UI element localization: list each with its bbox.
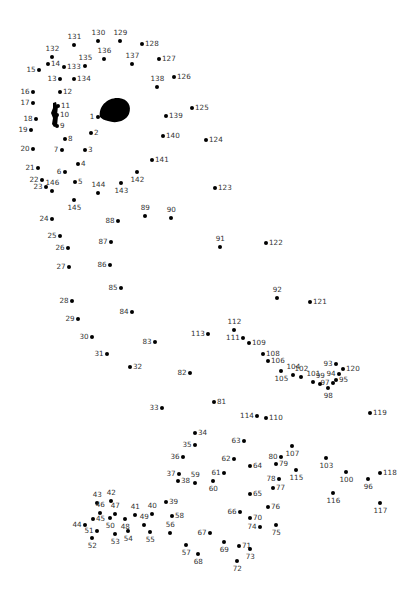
dot-108[interactable] — [261, 352, 265, 356]
dot-133[interactable] — [62, 65, 66, 69]
dot-15[interactable] — [37, 68, 41, 72]
dot-78[interactable] — [277, 477, 281, 481]
dot-34[interactable] — [193, 431, 197, 435]
dot-79[interactable] — [274, 462, 278, 466]
dot-28[interactable] — [70, 299, 74, 303]
dot-135[interactable] — [83, 64, 87, 68]
dot-46[interactable] — [98, 511, 102, 515]
dot-24[interactable] — [50, 217, 54, 221]
dot-131[interactable] — [72, 43, 76, 47]
dot-75[interactable] — [274, 523, 278, 527]
dot-76[interactable] — [266, 505, 270, 509]
dot-3[interactable] — [83, 148, 87, 152]
dot-20[interactable] — [31, 147, 35, 151]
dot-128[interactable] — [140, 42, 144, 46]
dot-90[interactable] — [169, 216, 173, 220]
dot-119[interactable] — [368, 411, 372, 415]
dot-38[interactable] — [176, 479, 180, 483]
dot-115[interactable] — [294, 468, 298, 472]
dot-113[interactable] — [206, 332, 210, 336]
dot-27[interactable] — [67, 265, 71, 269]
dot-9[interactable] — [55, 124, 59, 128]
dot-127[interactable] — [157, 57, 161, 61]
dot-35[interactable] — [193, 443, 197, 447]
dot-132[interactable] — [50, 55, 54, 59]
dot-122[interactable] — [264, 241, 268, 245]
dot-138[interactable] — [155, 85, 159, 89]
dot-1[interactable] — [96, 115, 100, 119]
dot-77[interactable] — [271, 486, 275, 490]
dot-29[interactable] — [76, 317, 80, 321]
dot-2[interactable] — [89, 131, 93, 135]
dot-58[interactable] — [170, 514, 174, 518]
dot-53[interactable] — [113, 532, 117, 536]
dot-69[interactable] — [222, 540, 226, 544]
dot-121[interactable] — [308, 300, 312, 304]
dot-73[interactable] — [248, 547, 252, 551]
dot-125[interactable] — [190, 106, 194, 110]
dot-146[interactable] — [50, 189, 54, 193]
dot-50[interactable] — [108, 516, 112, 520]
dot-36[interactable] — [181, 455, 185, 459]
dot-63[interactable] — [242, 439, 246, 443]
dot-107[interactable] — [290, 444, 294, 448]
dot-47[interactable] — [113, 512, 117, 516]
dot-31[interactable] — [105, 352, 109, 356]
dot-52[interactable] — [90, 536, 94, 540]
dot-71[interactable] — [237, 544, 241, 548]
dot-92[interactable] — [275, 296, 279, 300]
dot-118[interactable] — [378, 471, 382, 475]
dot-57[interactable] — [184, 543, 188, 547]
dot-143[interactable] — [119, 181, 123, 185]
dot-130[interactable] — [96, 39, 100, 43]
dot-141[interactable] — [150, 158, 154, 162]
dot-64[interactable] — [248, 464, 252, 468]
dot-103[interactable] — [324, 456, 328, 460]
dot-11[interactable] — [56, 104, 60, 108]
dot-89[interactable] — [143, 214, 147, 218]
dot-84[interactable] — [130, 310, 134, 314]
dot-104[interactable] — [291, 373, 295, 377]
dot-12[interactable] — [58, 90, 62, 94]
dot-137[interactable] — [130, 62, 134, 66]
dot-102[interactable] — [299, 375, 303, 379]
dot-49[interactable] — [142, 523, 146, 527]
dot-62[interactable] — [232, 457, 236, 461]
dot-40[interactable] — [150, 512, 154, 516]
dot-110[interactable] — [264, 416, 268, 420]
dot-101[interactable] — [311, 380, 315, 384]
dot-145[interactable] — [72, 198, 76, 202]
dot-13[interactable] — [58, 77, 62, 81]
dot-117[interactable] — [378, 501, 382, 505]
dot-120[interactable] — [341, 367, 345, 371]
dot-4[interactable] — [76, 162, 80, 166]
dot-41[interactable] — [133, 513, 137, 517]
dot-8[interactable] — [63, 137, 67, 141]
dot-97[interactable] — [331, 381, 335, 385]
dot-6[interactable] — [63, 170, 67, 174]
dot-106[interactable] — [266, 359, 270, 363]
dot-139[interactable] — [164, 114, 168, 118]
dot-32[interactable] — [128, 365, 132, 369]
dot-88[interactable] — [116, 219, 120, 223]
dot-80[interactable] — [279, 455, 283, 459]
dot-19[interactable] — [29, 128, 33, 132]
dot-111[interactable] — [241, 336, 245, 340]
dot-16[interactable] — [31, 90, 35, 94]
dot-56[interactable] — [168, 531, 172, 535]
dot-124[interactable] — [204, 138, 208, 142]
dot-134[interactable] — [72, 77, 76, 81]
dot-129[interactable] — [118, 39, 122, 43]
dot-81[interactable] — [212, 400, 216, 404]
dot-68[interactable] — [196, 552, 200, 556]
dot-25[interactable] — [58, 234, 62, 238]
dot-48[interactable] — [123, 517, 127, 521]
dot-70[interactable] — [248, 516, 252, 520]
dot-72[interactable] — [235, 559, 239, 563]
dot-105[interactable] — [279, 369, 283, 373]
dot-17[interactable] — [31, 101, 35, 105]
dot-142[interactable] — [135, 170, 139, 174]
dot-98[interactable] — [326, 386, 330, 390]
dot-126[interactable] — [172, 75, 176, 79]
dot-74[interactable] — [258, 525, 262, 529]
